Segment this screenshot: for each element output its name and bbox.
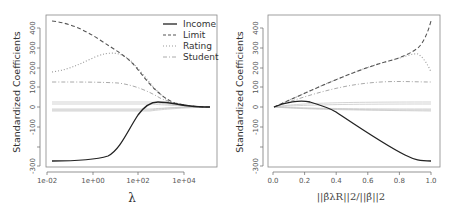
y-tick-label: -300 [252, 158, 260, 174]
right-x-tick-labels: 0.0 0.2 0.4 0.6 0.8 1.0 [267, 177, 436, 185]
x-tick-label: 0.0 [267, 177, 278, 185]
figure: 400 300 200 100 0 -100 -300 Standardized… [0, 0, 450, 217]
y-tick-label: 300 [252, 41, 260, 54]
right-student-line [274, 82, 431, 108]
y-tick-label: 300 [29, 41, 37, 54]
y-tick-label: 0 [252, 105, 260, 109]
left-x-tick-labels: 1e-02 1e+00 1e+02 1e+04 [37, 177, 196, 185]
student-line [52, 82, 210, 107]
legend-income-label: Income [183, 19, 217, 29]
right-plot-frame [268, 15, 440, 167]
y-tick-label: -100 [252, 119, 260, 135]
left-x-axis-label: λ [128, 191, 136, 205]
right-y-tick-labels: 400 300 200 100 0 -100 -300 [252, 21, 260, 174]
x-tick-label: 1e+00 [81, 177, 105, 185]
x-tick-label: 0.4 [331, 177, 343, 185]
right-limit-line [274, 21, 431, 107]
x-tick-label: 1.0 [425, 177, 436, 185]
y-tick-label: 200 [252, 61, 260, 74]
legend-limit-label: Limit [183, 30, 206, 40]
right-x-axis-label: ||β̂λR||2/||β̂||2 [317, 191, 385, 203]
y-tick-label: -100 [29, 119, 37, 135]
left-y-tick-labels: 400 300 200 100 0 -100 -300 [29, 21, 37, 174]
left-x-axis [47, 172, 184, 175]
y-tick-label: -300 [29, 158, 37, 174]
left-plot: 400 300 200 100 0 -100 -300 Standardized… [11, 15, 219, 205]
right-plot: 400 300 200 100 0 -100 -300 Standardized… [234, 15, 440, 203]
x-tick-label: 0.6 [362, 177, 374, 185]
left-other-coefficients [52, 102, 210, 111]
right-y-axis-label: Standardized Coefficients [234, 31, 245, 153]
x-tick-label: 1e+04 [172, 177, 196, 185]
x-tick-label: 0.2 [299, 177, 310, 185]
right-other-coefficients [274, 102, 431, 111]
x-tick-label: 1e-02 [37, 177, 57, 185]
y-tick-label: 100 [29, 80, 37, 93]
left-y-axis [37, 28, 40, 166]
y-tick-label: 0 [29, 105, 37, 109]
legend-rating-label: Rating [183, 41, 212, 51]
right-x-axis [273, 172, 431, 175]
y-tick-label: 400 [252, 21, 260, 34]
y-tick-label: 100 [252, 80, 260, 93]
x-tick-label: 1e+02 [126, 177, 150, 185]
right-y-axis [260, 28, 263, 166]
legend: Income Limit Rating Student [163, 19, 219, 62]
left-y-axis-label: Standardized Coefficients [11, 31, 22, 153]
y-tick-label: 400 [29, 21, 37, 34]
x-tick-label: 0.8 [394, 177, 405, 185]
y-tick-label: 200 [29, 61, 37, 74]
legend-student-label: Student [183, 52, 219, 62]
